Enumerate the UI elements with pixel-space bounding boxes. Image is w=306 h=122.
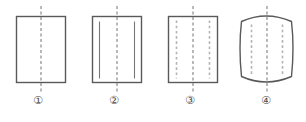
figure-caption-3: ③ — [152, 94, 228, 107]
figure-caption-4: ④ — [228, 94, 304, 107]
figure-item-1: ① — [0, 0, 76, 122]
figure-item-3: ③ — [152, 0, 228, 122]
figure-caption-1: ① — [0, 94, 76, 107]
figure-caption-2: ② — [76, 94, 152, 107]
figure-item-2: ② — [76, 0, 152, 122]
figure-item-4: ④ — [228, 0, 304, 122]
figure-panel: ① ② ③ ④ — [0, 0, 306, 122]
